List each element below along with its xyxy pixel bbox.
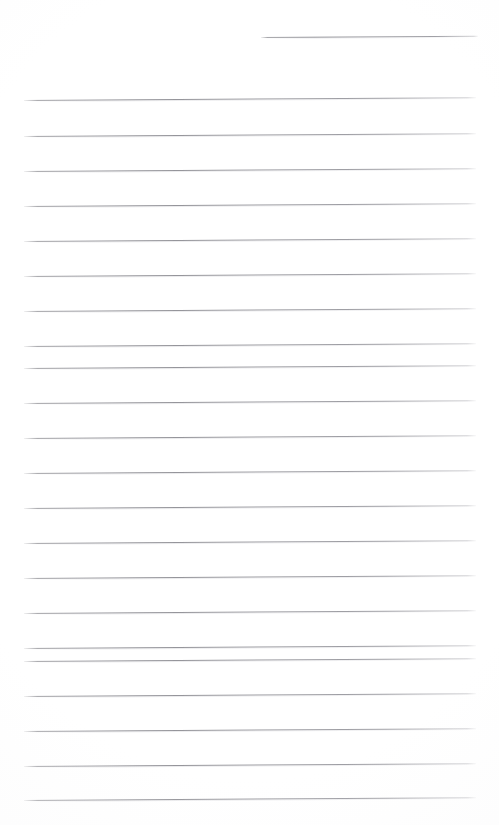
rule-21 — [24, 763, 476, 767]
rule-11 — [24, 435, 476, 439]
rule-02 — [24, 133, 476, 137]
rule-06 — [24, 273, 476, 277]
rule-09 — [24, 365, 476, 369]
rule-18 — [24, 658, 476, 662]
page-written-content — [0, 0, 1, 1]
rule-22 — [24, 797, 476, 801]
rule-20 — [24, 728, 476, 732]
rule-19 — [24, 693, 476, 697]
rule-05 — [24, 238, 476, 242]
rule-16 — [24, 610, 476, 614]
rule-17 — [24, 645, 476, 649]
rule-07 — [24, 308, 476, 312]
rule-04 — [24, 203, 476, 207]
paper-grain-overlay — [0, 0, 499, 825]
rule-12 — [24, 470, 476, 474]
rule-01 — [24, 97, 476, 101]
rule-13 — [24, 505, 476, 509]
rule-08 — [24, 343, 476, 347]
rule-03 — [24, 168, 476, 172]
rule-14 — [24, 540, 476, 544]
rule-15 — [24, 575, 476, 579]
rule-10 — [24, 400, 476, 404]
scanned-page — [0, 0, 499, 825]
rule-00-header — [261, 36, 478, 38]
